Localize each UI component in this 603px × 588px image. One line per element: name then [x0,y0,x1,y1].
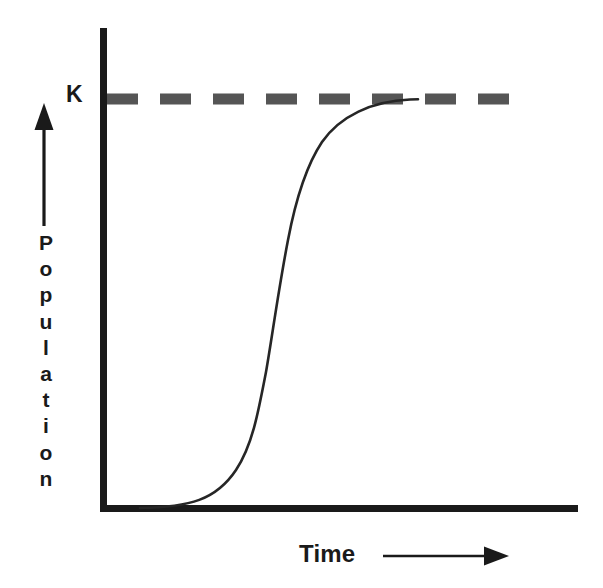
y-axis-label-letter: n [34,466,58,492]
y-axis-label-letter: P [34,230,58,256]
y-axis-direction-arrow [35,103,54,226]
x-axis-direction-arrow [383,547,509,566]
y-axis-label-letter: i [34,413,58,439]
carrying-capacity-label: K [66,83,83,106]
y-axis-label-letter: t [34,387,58,413]
y-axis-label: Population [34,230,58,492]
x-axis-label: Time [299,540,355,568]
plot-canvas [0,0,603,588]
y-axis-label-letter: p [34,282,58,308]
logistic-growth-figure: K Population Time [0,0,603,588]
logistic-growth-curve [140,99,418,508]
y-axis-label-letter: u [34,309,58,335]
y-axis-label-letter: o [34,256,58,282]
y-axis-label-letter: l [34,335,58,361]
y-axis-label-letter: o [34,440,58,466]
y-axis-label-letter: a [34,361,58,387]
y-axis-line [100,28,107,511]
